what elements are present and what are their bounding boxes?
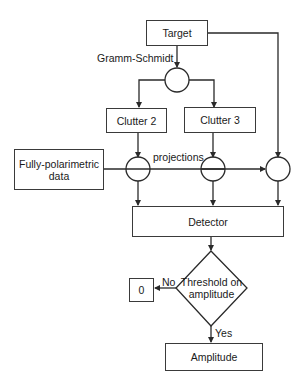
arrow-gs-to-clutter3 bbox=[189, 80, 214, 107]
yes-label: Yes bbox=[215, 327, 232, 339]
no-label: No bbox=[162, 276, 175, 288]
data-label-line1: Fully-polarimetric bbox=[19, 158, 99, 170]
gram-schmidt-node bbox=[165, 68, 189, 92]
arrow-gs-to-clutter2 bbox=[139, 80, 165, 107]
projection-node-3 bbox=[266, 157, 290, 181]
amplitude-box: Amplitude bbox=[165, 343, 263, 371]
data-box: Fully-polarimetric data bbox=[14, 149, 104, 190]
threshold-label-line1: Threshold on bbox=[176, 276, 247, 288]
clutter2-label: Clutter 2 bbox=[117, 115, 157, 127]
zero-box: 0 bbox=[129, 278, 154, 302]
threshold-text: Threshold on amplitude bbox=[176, 276, 247, 300]
detector-label: Detector bbox=[188, 216, 228, 228]
gramm-schmidt-label: Gramm-Schmidt bbox=[97, 52, 173, 64]
target-box: Target bbox=[146, 20, 208, 46]
arrow-target-to-projection3 bbox=[208, 33, 278, 157]
target-label: Target bbox=[162, 27, 191, 39]
clutter2-box: Clutter 2 bbox=[106, 108, 167, 133]
detector-box: Detector bbox=[132, 206, 284, 237]
amplitude-label: Amplitude bbox=[191, 351, 238, 363]
threshold-label-line2: amplitude bbox=[176, 288, 247, 300]
clutter3-box: Clutter 3 bbox=[184, 107, 256, 133]
zero-label: 0 bbox=[139, 284, 145, 296]
data-label-line2: data bbox=[49, 170, 69, 182]
clutter3-label: Clutter 3 bbox=[200, 114, 240, 126]
projections-label: projections bbox=[153, 151, 204, 163]
